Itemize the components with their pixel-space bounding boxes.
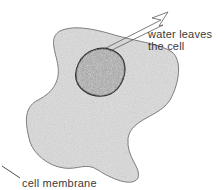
water-label-line1: water leaves xyxy=(148,29,212,40)
cell-diagram: water leaves the cell cell membrane xyxy=(0,0,224,190)
membrane-pointer-line xyxy=(2,166,20,178)
membrane-label: cell membrane xyxy=(22,178,97,189)
water-label-line2: the cell xyxy=(148,41,184,52)
nucleus xyxy=(76,48,125,95)
